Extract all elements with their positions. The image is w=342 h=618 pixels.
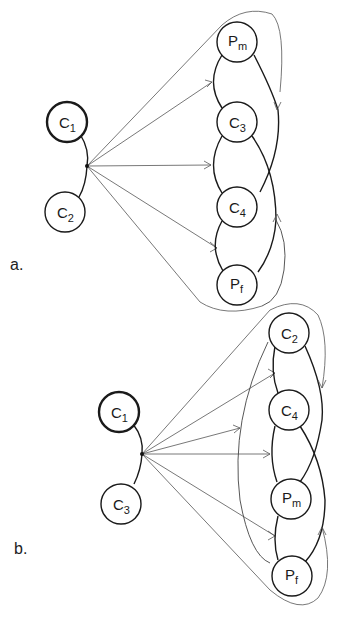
panel-b-label: b. <box>14 540 27 557</box>
panel-a-junction <box>85 164 89 168</box>
panel-b-junction <box>140 452 144 456</box>
panel-a-label: a. <box>10 256 23 273</box>
diagram-canvas: C1 C2 Pm C3 C4 Pf a. <box>0 0 342 618</box>
panel-a-arrows <box>87 11 282 311</box>
panel-b: C1 C3 C2 C4 Pm Pf b. <box>14 304 328 605</box>
panel-a: C1 C2 Pm C3 C4 Pf a. <box>10 11 285 311</box>
panel-b-chain <box>272 346 326 562</box>
